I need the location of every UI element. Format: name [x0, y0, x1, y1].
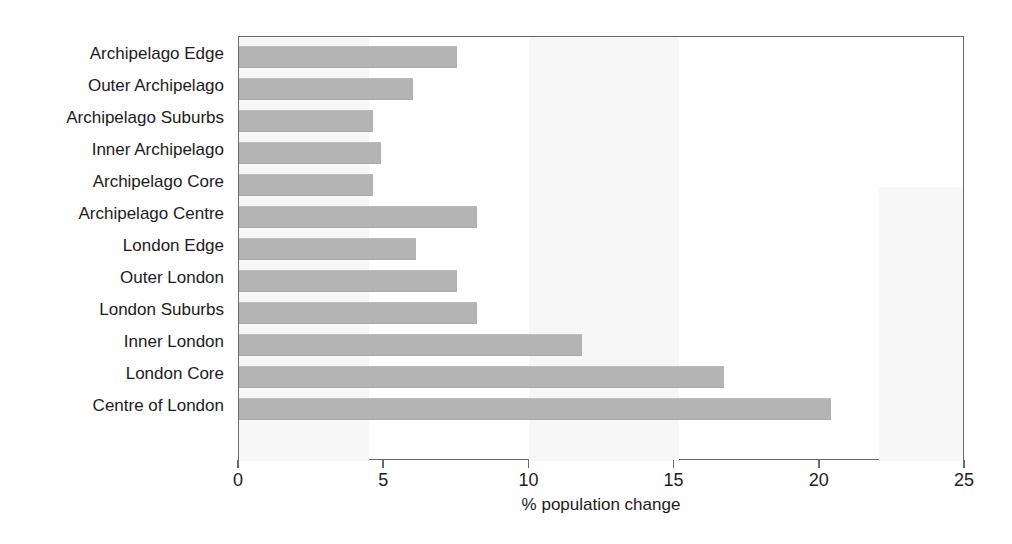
- category-label: Archipelago Suburbs: [0, 107, 224, 129]
- bar-chart-figure: Archipelago EdgeOuter ArchipelagoArchipe…: [0, 0, 1012, 544]
- category-axis: Archipelago EdgeOuter ArchipelagoArchipe…: [0, 36, 232, 460]
- bar: [239, 206, 477, 228]
- bar: [239, 366, 724, 388]
- bar-row: [239, 110, 963, 132]
- category-label: London Suburbs: [0, 299, 224, 321]
- bar: [239, 110, 373, 132]
- bar: [239, 46, 457, 68]
- x-tick-mark: [237, 460, 239, 468]
- category-label: Inner London: [0, 331, 224, 353]
- bar: [239, 270, 457, 292]
- x-tick-label: 5: [378, 469, 388, 491]
- bar: [239, 398, 831, 420]
- bar-row: [239, 238, 963, 260]
- category-label: Outer Archipelago: [0, 75, 224, 97]
- category-label: London Core: [0, 363, 224, 385]
- bar-row: [239, 398, 963, 420]
- x-axis-title: % population change: [238, 495, 964, 515]
- x-tick-mark: [673, 460, 675, 468]
- category-label: Archipelago Centre: [0, 203, 224, 225]
- bar-row: [239, 174, 963, 196]
- bar-row: [239, 334, 963, 356]
- bar-row: [239, 302, 963, 324]
- bars-layer: [239, 37, 963, 459]
- bar-row: [239, 366, 963, 388]
- bar: [239, 334, 582, 356]
- bar: [239, 142, 381, 164]
- bar-row: [239, 142, 963, 164]
- bar: [239, 78, 413, 100]
- x-tick-label: 10: [518, 469, 538, 491]
- x-tick-mark: [528, 460, 530, 468]
- x-tick-label: 20: [809, 469, 829, 491]
- category-label: Centre of London: [0, 395, 224, 417]
- x-tick-mark: [818, 460, 820, 468]
- category-label: Archipelago Edge: [0, 43, 224, 65]
- category-label: Archipelago Core: [0, 171, 224, 193]
- x-tick-mark: [963, 460, 965, 468]
- category-label: Inner Archipelago: [0, 139, 224, 161]
- bar-row: [239, 78, 963, 100]
- bar: [239, 238, 416, 260]
- plot-area: [238, 36, 964, 460]
- bar: [239, 174, 373, 196]
- category-label: Outer London: [0, 267, 224, 289]
- bar: [239, 302, 477, 324]
- category-label: London Edge: [0, 235, 224, 257]
- x-axis: 0510152025: [238, 460, 964, 500]
- bar-row: [239, 206, 963, 228]
- x-tick-mark: [382, 460, 384, 468]
- bar-row: [239, 270, 963, 292]
- bar-row: [239, 46, 963, 68]
- x-tick-label: 25: [954, 469, 974, 491]
- x-tick-label: 0: [233, 469, 243, 491]
- x-tick-label: 15: [664, 469, 684, 491]
